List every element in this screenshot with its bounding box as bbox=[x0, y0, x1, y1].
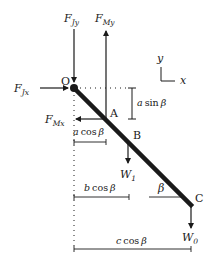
free-body-diagram: FJy FMy FJx FMx W1 W0 O A B C y x asinβ bbox=[0, 0, 216, 269]
force-fmx-label: FMx bbox=[44, 113, 65, 128]
dimension-a-sin-beta-label: asinβ bbox=[137, 97, 167, 108]
angle-beta-label: β bbox=[157, 182, 164, 195]
dimension-b-cos-beta bbox=[74, 194, 129, 200]
force-fmy-label: FMy bbox=[94, 12, 115, 27]
dimension-a-cos-beta-label: acosβ bbox=[73, 126, 105, 137]
joint-o-dot bbox=[70, 84, 78, 92]
dimension-c-cos-beta bbox=[74, 246, 191, 252]
axis-x-label: x bbox=[180, 74, 187, 87]
dimension-b-cos-beta-label: bcosβ bbox=[84, 182, 116, 193]
axis-indicator: y x bbox=[156, 52, 187, 87]
axis-corner-lines bbox=[161, 67, 175, 81]
point-a-label: A bbox=[109, 107, 119, 120]
force-w1-label: W1 bbox=[120, 168, 136, 183]
point-b-label: B bbox=[133, 129, 141, 142]
dimension-a-sin-beta bbox=[128, 88, 136, 119]
dimension-c-cos-beta-label: ccosβ bbox=[116, 235, 147, 246]
point-c-label: C bbox=[195, 192, 203, 205]
force-w0-label: W0 bbox=[182, 231, 198, 246]
axis-y-label: y bbox=[156, 52, 164, 65]
point-o-label: O bbox=[61, 75, 70, 88]
dimension-a-cos-beta bbox=[74, 139, 106, 145]
force-fjy-label: FJy bbox=[63, 12, 80, 27]
force-fjx-label: FJx bbox=[13, 82, 30, 97]
